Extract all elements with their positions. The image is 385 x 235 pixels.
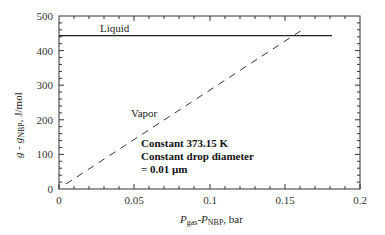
y-tick-labels: 0 100 200 300 400 500 [37, 10, 54, 195]
note-drop-diameter: Constant drop diameter [141, 150, 254, 162]
x-tick-label: 0.2 [353, 194, 367, 206]
y-tick-label: 200 [37, 114, 54, 126]
chart: 0 0.05 0.1 0.15 0.2 0 100 200 300 400 50… [0, 0, 385, 235]
y-tick-label: 100 [37, 148, 54, 160]
x-tick-label: 0 [56, 194, 62, 206]
y-axis-label: g - gNBP, J/mol [12, 92, 26, 158]
note-temperature: Constant 373.15 K [141, 137, 229, 149]
vapor-label: Vapor [131, 107, 158, 119]
x-tick-labels: 0 0.05 0.1 0.15 0.2 [56, 194, 367, 206]
y-tick-label: 0 [48, 183, 54, 195]
x-ticks [59, 16, 360, 189]
y-tick-label: 400 [37, 45, 54, 57]
y-tick-label: 500 [37, 10, 54, 22]
plot-frame [59, 16, 360, 189]
note-diameter-value: = 0.01 µm [141, 163, 188, 175]
x-tick-label: 0.15 [275, 194, 295, 206]
y-tick-label: 300 [37, 79, 54, 91]
x-axis-label: Pgas-PNBP, bar [179, 213, 243, 227]
x-tick-label: 0.05 [124, 194, 144, 206]
x-tick-label: 0.1 [203, 194, 217, 206]
liquid-label: Liquid [100, 22, 130, 34]
